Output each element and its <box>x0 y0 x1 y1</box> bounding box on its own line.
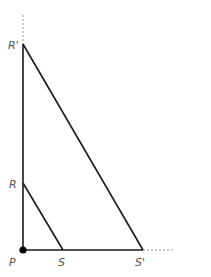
label-p: P <box>9 256 16 269</box>
label-s-prime: S' <box>135 256 145 269</box>
label-r-prime: R' <box>8 39 19 52</box>
similar-triangles-diagram: R' R P S S' <box>0 0 211 277</box>
label-r: R <box>9 178 17 191</box>
label-s: S <box>58 256 65 269</box>
segment-r-prime-s-prime <box>23 44 143 250</box>
point-p-dot <box>19 246 26 253</box>
segment-r-s <box>23 183 63 250</box>
